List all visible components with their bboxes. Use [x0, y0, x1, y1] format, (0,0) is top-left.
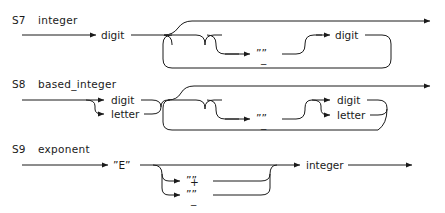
rule-s7-integer: S7 integer digit ”” _: [0, 14, 445, 72]
page-header-band: [0, 0, 445, 9]
rule-s7-railroad: digit ”” _ digit: [0, 14, 445, 72]
rule-s7-terminal-digit-2: digit: [335, 29, 358, 41]
rule-s8-terminal-underscore-mark: _: [260, 117, 267, 130]
rule-s9-railroad: ”E” ”” + ”” _ integer: [0, 143, 445, 213]
rule-s8-terminal-letter-2: letter: [337, 109, 366, 121]
rule-s7-terminal-underscore-mark: _: [260, 52, 267, 65]
syntax-diagram-page: S7 integer digit ”” _: [0, 0, 445, 213]
rule-s8-railroad: digit letter ”” _ digit letter: [0, 78, 445, 138]
rule-s9-terminal-plus-mark: +: [190, 176, 199, 188]
rule-s9-terminal-minus-mark: _: [190, 193, 197, 206]
rule-s9-terminal-e: ”E”: [113, 159, 131, 171]
rule-s8-terminal-letter-1: letter: [111, 108, 140, 120]
rule-s8-terminal-digit-2: digit: [337, 94, 360, 106]
rule-s8-based-integer: S8 based_integer digit letter: [0, 78, 445, 138]
rule-s9-exponent: S9 exponent ”E” ”” + ”” _: [0, 143, 445, 213]
rule-s9-terminal-integer: integer: [306, 159, 344, 171]
rule-s8-terminal-digit-1: digit: [111, 94, 134, 106]
rule-s7-terminal-digit-1: digit: [101, 29, 124, 41]
